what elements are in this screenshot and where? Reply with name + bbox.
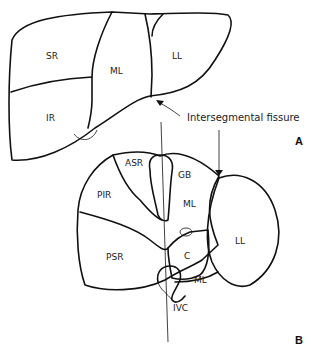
fissure-arrow-b xyxy=(215,130,223,176)
panel-a-liver xyxy=(9,12,231,160)
segment-label-c: C xyxy=(184,251,190,261)
segment-label-sr: SR xyxy=(46,51,58,61)
segment-label-ml-lower: ML xyxy=(194,275,207,285)
fissure-arrow-a xyxy=(156,100,180,116)
segment-label-ir: IR xyxy=(46,113,55,123)
panel-label-b: B xyxy=(295,334,303,346)
segment-label-ll-b: LL xyxy=(235,236,245,246)
annotation-intersegmental-fissure: Intersegmental fissure xyxy=(187,112,300,123)
segment-label-ml: ML xyxy=(110,66,123,76)
segment-label-ml-upper: ML xyxy=(183,199,196,209)
segment-label-ll: LL xyxy=(172,51,182,61)
segment-label-asr: ASR xyxy=(125,158,143,168)
segment-label-psr: PSR xyxy=(106,252,123,262)
liver-segments-diagram: SR ML LL IR Intersegmental fissure A ASR xyxy=(0,0,311,352)
segment-label-pir: PIR xyxy=(97,190,111,200)
segment-label-ivc: IVC xyxy=(173,303,188,313)
segment-label-gb: GB xyxy=(178,170,191,180)
panel-label-a: A xyxy=(295,135,303,147)
